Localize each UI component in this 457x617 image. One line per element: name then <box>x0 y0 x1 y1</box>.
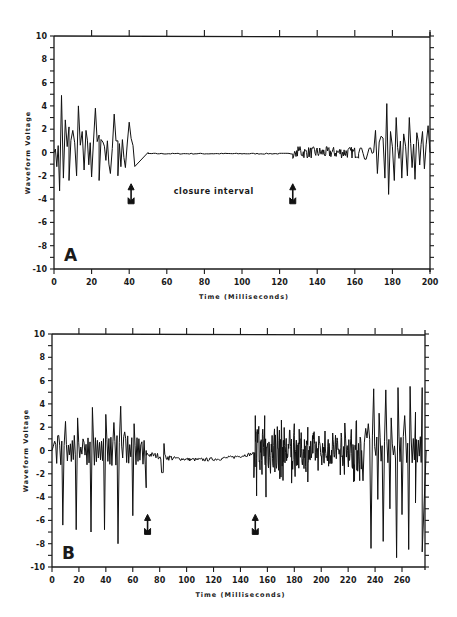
x-tick-label: 220 <box>340 576 357 585</box>
panel-b-x-axis-label: Time (Milliseconds) <box>195 591 285 599</box>
panel-a-label: A <box>64 245 78 265</box>
y-tick-label: 6 <box>41 79 47 88</box>
x-tick-label: 40 <box>100 576 112 585</box>
y-tick-label: 10 <box>36 32 48 41</box>
x-tick-label: 60 <box>161 278 173 287</box>
closure-marker-arrow-icon <box>252 514 258 534</box>
y-tick-label: 0 <box>41 149 47 158</box>
x-tick-label: 260 <box>394 576 411 585</box>
x-axis-top <box>52 334 425 335</box>
panel-a-y-axis-label: Waveform Voltage <box>24 111 32 194</box>
x-tick-label: 0 <box>49 576 55 585</box>
x-tick-label: 20 <box>86 278 98 287</box>
y-tick-label: 10 <box>34 330 46 339</box>
x-tick-label: 100 <box>178 576 195 585</box>
x-tick-label: 20 <box>73 576 85 585</box>
panel-b: 020406080100120140160180200220240260 108… <box>22 328 429 599</box>
x-tick-label: 180 <box>286 576 303 585</box>
y-tick-label: -8 <box>36 540 45 549</box>
x-tick-label: 80 <box>199 278 211 287</box>
panel-b-waveform-line <box>52 386 426 557</box>
y-tick-label: -10 <box>31 563 46 572</box>
x-tick-label: 140 <box>309 278 326 287</box>
y-tick-label: 4 <box>39 400 45 409</box>
y-tick-label: 2 <box>41 125 47 134</box>
x-tick-label: 200 <box>422 278 439 287</box>
panel-b-y-tick-labels: 1086420-2-4-6-8-10 <box>31 330 46 572</box>
x-tick-label: 240 <box>367 576 384 585</box>
y-tick-label: -2 <box>38 172 47 181</box>
panel-b-y-axis-label: Waveform Voltage <box>22 409 30 492</box>
x-tick-label: 140 <box>232 576 249 585</box>
y-tick-label: 0 <box>39 447 45 456</box>
y-tick-label: -6 <box>36 516 45 525</box>
y-tick-label: -4 <box>36 493 45 502</box>
y-tick-label: -4 <box>38 195 47 204</box>
panel-b-x-tick-labels: 020406080100120140160180200220240260 <box>49 576 411 585</box>
x-tick-label: 160 <box>259 576 276 585</box>
y-tick-label: -10 <box>33 265 48 274</box>
x-tick-label: 80 <box>154 576 166 585</box>
panel-a: 020406080100120140160180200 1086420-2-4-… <box>24 30 439 301</box>
y-tick-label: -8 <box>38 242 47 251</box>
y-tick-label: 8 <box>39 353 45 362</box>
y-tick-label: -2 <box>36 470 45 479</box>
closure-interval-annotation: closure interval <box>174 187 254 196</box>
x-tick-label: 120 <box>205 576 222 585</box>
x-tick-label: 200 <box>313 576 330 585</box>
x-axis-top <box>54 36 430 37</box>
panel-b-arrows <box>145 514 259 534</box>
closure-marker-arrow-icon <box>145 514 151 534</box>
y-tick-label: 4 <box>41 102 47 111</box>
y-tick-label: 8 <box>41 55 47 64</box>
panel-a-x-axis-label: Time (Milliseconds) <box>199 293 289 301</box>
x-tick-label: 160 <box>346 278 363 287</box>
panel-a-y-tick-labels: 1086420-2-4-6-8-10 <box>33 32 48 274</box>
x-tick-label: 180 <box>384 278 401 287</box>
y-tick-label: 6 <box>39 377 45 386</box>
panel-a-waveform-line <box>54 95 430 194</box>
x-tick-label: 0 <box>51 278 57 287</box>
x-tick-label: 40 <box>124 278 136 287</box>
panel-b-label: B <box>62 543 75 563</box>
figure: 020406080100120140160180200 1086420-2-4-… <box>0 0 457 617</box>
closure-marker-arrow-icon <box>290 184 296 204</box>
x-tick-label: 100 <box>234 278 251 287</box>
y-tick-label: -6 <box>38 218 47 227</box>
x-tick-label: 120 <box>271 278 288 287</box>
x-tick-label: 60 <box>127 576 139 585</box>
y-tick-label: 2 <box>39 423 45 432</box>
closure-marker-arrow-icon <box>128 184 134 204</box>
panel-a-x-tick-labels: 020406080100120140160180200 <box>51 278 439 287</box>
